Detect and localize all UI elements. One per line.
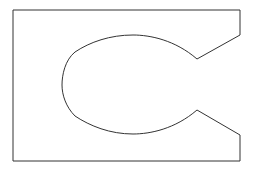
- diagram-canvas: [0, 0, 254, 170]
- plate-outline-with-c-cutout: [13, 10, 240, 161]
- c-shape-diagram: [0, 0, 254, 170]
